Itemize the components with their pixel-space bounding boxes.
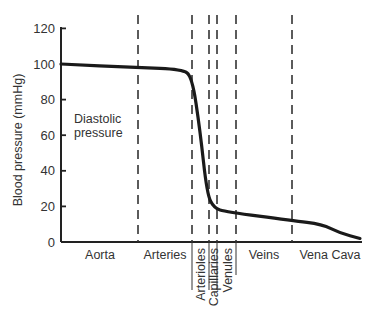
diastolic-pressure-annotation-line2: pressure — [74, 126, 123, 140]
region-label-venules: Venules — [221, 248, 235, 292]
y-tick-label: 40 — [41, 163, 55, 178]
region-label-aorta: Aorta — [85, 248, 115, 262]
diastolic-pressure-annotation-line1: Diastolic — [74, 112, 121, 126]
blood-pressure-chart: 020406080100120 Blood pressure (mmHg) Di… — [0, 0, 375, 311]
region-label-arterioles: Arterioles — [194, 248, 208, 301]
region-label-vena-cava: Vena Cava — [299, 248, 360, 262]
pressure-curve — [61, 64, 360, 238]
y-tick-label: 120 — [33, 21, 55, 36]
region-label-veins: Veins — [249, 248, 280, 262]
y-tick-label: 80 — [41, 92, 55, 107]
y-tick-label: 0 — [48, 235, 55, 250]
y-tick-label: 20 — [41, 199, 55, 214]
y-tick-label: 60 — [41, 128, 55, 143]
y-axis-title: Blood pressure (mmHg) — [11, 74, 25, 207]
region-label-arteries: Arteries — [143, 248, 186, 262]
y-tick-label: 100 — [33, 57, 55, 72]
region-label-capillaries: Capillaries — [207, 248, 221, 306]
